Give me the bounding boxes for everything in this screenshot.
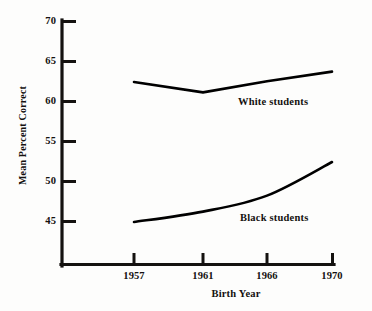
line-chart-figure: 70 65 60 55 50 45 1957 1961 1966 1970 Me…: [0, 0, 372, 311]
x-tick-label-1966: 1966: [247, 270, 287, 281]
y-axis-title: Mean Percent Correct: [17, 76, 28, 196]
series-line-white-students: [134, 72, 332, 93]
y-tick-label-60: 60: [30, 95, 56, 106]
y-tick-label-50: 50: [30, 175, 56, 186]
x-axis-ticks: [134, 253, 333, 264]
y-axis-ticks: [62, 22, 76, 222]
x-tick-label-1961: 1961: [183, 270, 223, 281]
series-label-white-students: White students: [238, 96, 308, 107]
chart-plot-area: [0, 0, 372, 311]
y-tick-label-45: 45: [30, 215, 56, 226]
x-tick-label-1970: 1970: [312, 270, 352, 281]
y-tick-label-65: 65: [30, 55, 56, 66]
x-axis-title: Birth Year: [126, 288, 346, 299]
series-label-black-students: Black students: [240, 212, 308, 223]
x-tick-label-1957: 1957: [114, 270, 154, 281]
y-tick-label-55: 55: [30, 135, 56, 146]
y-tick-label-70: 70: [30, 15, 56, 26]
